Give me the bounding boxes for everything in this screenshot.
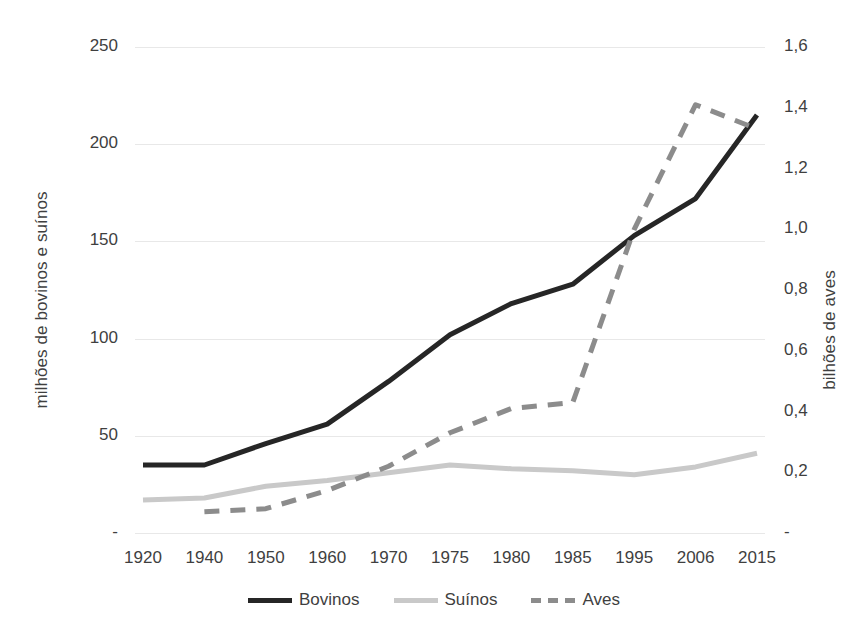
legend-swatch-aves — [531, 598, 575, 603]
legend-swatch-bovinos — [248, 598, 292, 603]
legend-label-suinos: Suínos — [445, 590, 498, 610]
legend-label-bovinos: Bovinos — [299, 590, 359, 610]
legend-swatch-suinos — [394, 598, 438, 603]
legend-label-aves: Aves — [582, 590, 620, 610]
series-line-aves — [204, 105, 757, 512]
plot-area — [0, 0, 868, 634]
legend-item-aves[interactable]: Aves — [531, 590, 620, 610]
series-line-bovinos — [143, 115, 757, 465]
legend-item-bovinos[interactable]: Bovinos — [248, 590, 359, 610]
legend-item-suinos[interactable]: Suínos — [394, 590, 498, 610]
line-chart: milhões de bovinos e suínos bilhões de a… — [0, 0, 868, 634]
chart-legend: Bovinos Suínos Aves — [0, 590, 868, 610]
series-line-suínos — [143, 453, 757, 500]
